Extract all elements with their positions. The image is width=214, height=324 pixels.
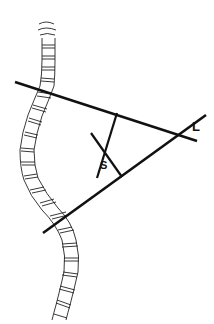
label-S: S: [100, 160, 107, 171]
cobb-angle-diagram: L S: [0, 0, 214, 324]
lower-endplate-line: [43, 115, 206, 233]
upper-endplate-line: [15, 82, 197, 141]
label-L: L: [192, 120, 200, 133]
cobb-lines: [15, 82, 206, 233]
spine-illustration: [20, 22, 79, 320]
